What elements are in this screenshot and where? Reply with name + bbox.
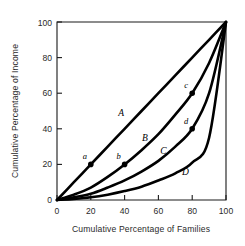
data-point-d <box>189 126 195 132</box>
x-tick-label: 20 <box>86 206 96 216</box>
x-tick-label: 0 <box>55 206 60 216</box>
curve-label-C: C <box>160 146 167 156</box>
x-tick-label: 100 <box>219 206 234 216</box>
lorenz-curve-figure: 0 20 40 60 80 100 0 20 40 60 80 100 Cumu… <box>0 0 245 246</box>
y-tick-label: 80 <box>42 53 52 63</box>
data-point-a <box>88 162 94 168</box>
x-axis-title: Cumulative Percentage of Families <box>72 224 210 234</box>
data-point-b <box>122 162 128 168</box>
y-tick-label: 20 <box>42 159 52 169</box>
curve-label-A: A <box>117 108 124 118</box>
curve-label-B: B <box>142 133 148 143</box>
y-tick-label: 0 <box>47 195 52 205</box>
x-tick-label: 60 <box>154 206 164 216</box>
data-point-label-b: b <box>116 151 120 161</box>
data-point-label-c: c <box>184 80 188 90</box>
chart-canvas: 0 20 40 60 80 100 0 20 40 60 80 100 Cumu… <box>0 0 245 246</box>
y-axis-title: Cumulative Percentage of Income <box>10 44 20 178</box>
y-tick-label: 40 <box>42 124 52 134</box>
y-tick-label: 60 <box>42 88 52 98</box>
data-point-c <box>189 90 195 96</box>
data-point-label-a: a <box>83 151 87 161</box>
x-tick-label: 40 <box>120 206 130 216</box>
y-tick-label: 100 <box>38 18 53 28</box>
data-point-label-d: d <box>184 116 189 126</box>
curve-label-D: D <box>181 167 189 177</box>
x-tick-label: 80 <box>187 206 197 216</box>
